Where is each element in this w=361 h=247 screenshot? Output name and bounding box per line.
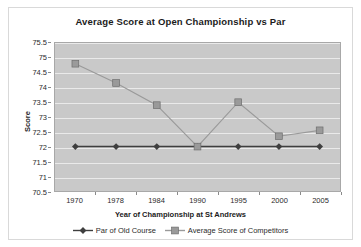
y-axis-tick-mark xyxy=(48,42,51,43)
x-axis-title: Year of Championship at St Andrews xyxy=(9,210,352,219)
x-axis-tick-label: 2000 xyxy=(271,196,288,205)
x-axis-tick-mark xyxy=(177,192,178,195)
data-point-marker xyxy=(113,143,120,150)
series-line xyxy=(75,64,319,147)
y-axis-tick-mark xyxy=(48,117,51,118)
y-axis-tick-label: 70.5 xyxy=(32,188,47,197)
x-axis-tick-label: 1984 xyxy=(148,196,165,205)
y-axis-tick-mark xyxy=(48,177,51,178)
x-axis-tick-mark xyxy=(136,192,137,195)
data-point-marker xyxy=(153,102,160,109)
y-axis-tick-mark xyxy=(48,87,51,88)
y-axis-tick-label: 71.5 xyxy=(32,158,47,167)
y-axis-tick-mark xyxy=(48,162,51,163)
chart-container: Average Score at Open Championship vs Pa… xyxy=(8,7,353,240)
legend-entry[interactable]: Par of Old Course xyxy=(73,226,156,235)
data-point-marker xyxy=(194,143,201,150)
y-axis-tick-mark xyxy=(48,147,51,148)
data-series-layer xyxy=(55,43,340,191)
y-axis-tick-label: 72.5 xyxy=(32,128,47,137)
y-axis-tick-label: 73.5 xyxy=(32,98,47,107)
y-axis-tick-labels: 70.57171.57272.57373.57474.57575.5 xyxy=(9,42,51,192)
data-point-marker xyxy=(276,133,283,140)
data-point-marker xyxy=(72,143,79,150)
y-axis-tick-label: 73 xyxy=(39,113,47,122)
x-axis-tick-mark xyxy=(341,192,342,195)
x-axis-tick-label: 1990 xyxy=(189,196,206,205)
data-point-marker xyxy=(72,60,79,67)
x-axis-tick-mark xyxy=(300,192,301,195)
y-axis-tick-mark xyxy=(48,102,51,103)
data-point-marker xyxy=(276,143,283,150)
legend-label: Average Score of Competitors xyxy=(188,226,288,235)
data-point-marker xyxy=(235,99,242,106)
y-axis-tick-label: 74 xyxy=(39,83,47,92)
x-axis-tick-label: 1995 xyxy=(230,196,247,205)
legend-label: Par of Old Course xyxy=(96,226,156,235)
x-axis-tick-mark xyxy=(218,192,219,195)
y-axis-tick-mark xyxy=(48,192,51,193)
x-axis-tick-label: 2005 xyxy=(312,196,329,205)
x-axis-tick-label: 1978 xyxy=(107,196,124,205)
y-axis-tick-label: 74.5 xyxy=(32,68,47,77)
data-point-marker xyxy=(316,143,323,150)
y-axis-tick-label: 75.5 xyxy=(32,38,47,47)
x-axis-tick-label: 1970 xyxy=(66,196,83,205)
legend-square-marker-icon xyxy=(165,226,185,235)
data-point-marker xyxy=(153,143,160,150)
plot-area xyxy=(54,42,341,192)
data-point-marker xyxy=(113,80,120,87)
data-point-marker xyxy=(316,127,323,134)
x-axis-tick-mark xyxy=(259,192,260,195)
x-axis-tick-labels: 1970197819841990199520002005 xyxy=(54,196,341,210)
legend-entry[interactable]: Average Score of Competitors xyxy=(165,226,288,235)
y-axis-tick-mark xyxy=(48,132,51,133)
y-axis-tick-mark xyxy=(48,57,51,58)
y-axis-tick-label: 71 xyxy=(39,173,47,182)
y-axis-tick-label: 75 xyxy=(39,53,47,62)
data-point-marker xyxy=(235,143,242,150)
y-axis-tick-label: 72 xyxy=(39,143,47,152)
chart-title: Average Score at Open Championship vs Pa… xyxy=(9,16,352,27)
x-axis-tick-mark xyxy=(95,192,96,195)
y-axis-tick-mark xyxy=(48,72,51,73)
chart-legend: Par of Old CourseAverage Score of Compet… xyxy=(9,226,352,235)
legend-diamond-marker-icon xyxy=(73,226,93,235)
